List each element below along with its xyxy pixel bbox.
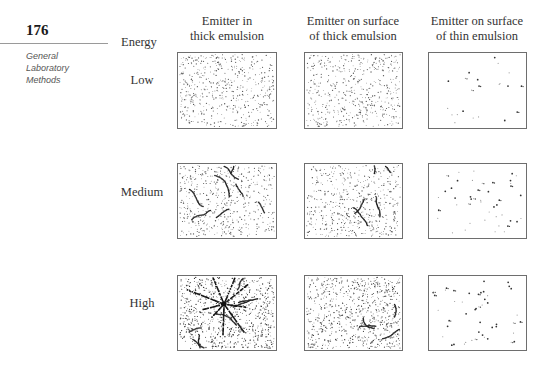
- column-header: Emitter on surfaceof thick emulsion: [283, 14, 423, 44]
- page-number: 176: [26, 22, 49, 39]
- emulsion-panel-high-thin-surface: [428, 275, 527, 351]
- energy-row-label: High: [112, 296, 172, 311]
- dot-field-graphic: [305, 53, 402, 128]
- dot-field-graphic: [429, 164, 526, 238]
- section-label-line: Laboratory: [26, 62, 69, 74]
- column-header-line: of thick emulsion: [283, 29, 423, 44]
- emulsion-panel-high-thick-surface: [304, 275, 403, 351]
- section-label-line: Methods: [26, 74, 69, 86]
- dot-field-graphic: [178, 164, 276, 238]
- dot-field-graphic: [305, 164, 402, 238]
- header-rule: [0, 43, 108, 44]
- column-header-line: thick emulsion: [157, 29, 297, 44]
- dot-field-graphic: [429, 276, 526, 350]
- emulsion-panel-medium-thick-surface: [304, 163, 403, 239]
- energy-row-label: Low: [112, 73, 172, 88]
- emulsion-panel-medium-thick-inside: [177, 163, 277, 239]
- column-header-line: Emitter in: [157, 14, 297, 29]
- column-header-line: of thin emulsion: [407, 29, 547, 44]
- energy-row-header: Energy: [121, 35, 157, 50]
- emulsion-panel-low-thick-inside: [177, 52, 277, 129]
- column-header-line: Emitter on surface: [283, 14, 423, 29]
- section-label-line: General: [26, 50, 69, 62]
- emulsion-panel-low-thick-surface: [304, 52, 403, 129]
- column-header: Emitter inthick emulsion: [157, 14, 297, 44]
- emulsion-panel-low-thin-surface: [428, 52, 527, 129]
- energy-row-label: Medium: [112, 185, 172, 200]
- dot-field-graphic: [178, 276, 276, 350]
- dot-field-graphic: [429, 53, 526, 128]
- emulsion-panel-high-thick-inside: [177, 275, 277, 351]
- emulsion-panel-medium-thin-surface: [428, 163, 527, 239]
- section-label: General Laboratory Methods: [26, 50, 69, 86]
- column-header-line: Emitter on surface: [407, 14, 547, 29]
- column-header: Emitter on surfaceof thin emulsion: [407, 14, 547, 44]
- dot-field-graphic: [178, 53, 276, 128]
- dot-field-graphic: [305, 276, 402, 350]
